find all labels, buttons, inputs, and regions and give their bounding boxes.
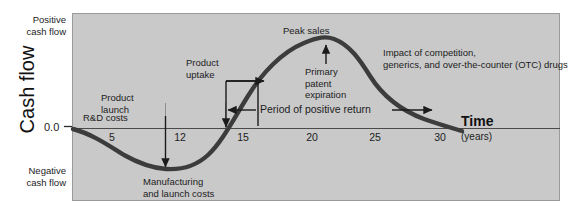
- cash-flow-curve: [73, 37, 462, 169]
- figure-root: Positive cash flow Negative cash flow Ca…: [0, 0, 573, 218]
- vector-layer: [0, 0, 573, 218]
